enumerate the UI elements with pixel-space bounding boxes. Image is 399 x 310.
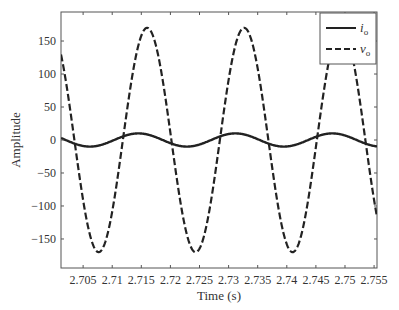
chart: 2.7052.712.7152.722.7252.732.7352.742.74… bbox=[0, 0, 399, 310]
legend: iovo bbox=[320, 13, 376, 64]
x-tick-label: 2.73 bbox=[218, 273, 239, 287]
y-tick-label: −50 bbox=[37, 166, 56, 180]
x-axis-label: Time (s) bbox=[197, 288, 241, 303]
y-tick-label: −150 bbox=[31, 232, 56, 246]
y-axis-label: Amplitude bbox=[8, 112, 23, 168]
x-tick-label: 2.705 bbox=[70, 273, 97, 287]
x-tick-label: 2.745 bbox=[302, 273, 329, 287]
x-tick-label: 2.75 bbox=[334, 273, 355, 287]
x-tick-label: 2.71 bbox=[102, 273, 123, 287]
y-tick-label: 50 bbox=[44, 100, 56, 114]
x-tick-label: 2.715 bbox=[128, 273, 155, 287]
x-tick-label: 2.725 bbox=[186, 273, 213, 287]
x-tick-label: 2.755 bbox=[361, 273, 388, 287]
y-tick-label: −100 bbox=[31, 199, 56, 213]
x-tick-label: 2.74 bbox=[276, 273, 297, 287]
y-tick-label: 0 bbox=[50, 133, 56, 147]
x-tick-label: 2.72 bbox=[160, 273, 181, 287]
y-tick-label: 150 bbox=[38, 34, 56, 48]
x-tick-label: 2.735 bbox=[244, 273, 271, 287]
y-tick-label: 100 bbox=[38, 67, 56, 81]
